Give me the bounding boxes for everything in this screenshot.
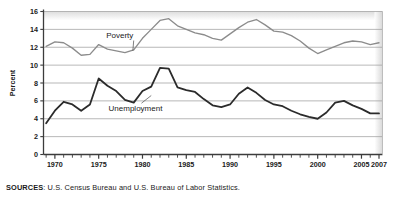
y-axis-tick-labels: 0246810121416 <box>30 7 38 159</box>
y-axis-title: Percent <box>8 69 17 96</box>
y-tick-label-0: 0 <box>34 150 38 159</box>
y-tick-label-14: 14 <box>30 25 38 34</box>
x-tick-label-2005: 2005 <box>353 160 369 169</box>
source-note: SOURCES: U.S. Census Bureau and U.S. Bur… <box>6 183 240 192</box>
source-note-label: SOURCES <box>6 183 43 192</box>
series-label-unemployment: Unemployment <box>109 104 164 113</box>
y-tick-label-12: 12 <box>30 43 38 52</box>
y-tick-label-16: 16 <box>30 7 38 16</box>
y-tick-label-8: 8 <box>34 79 38 88</box>
y-axis-title-text: Percent <box>8 69 17 96</box>
x-tick-label-1990: 1990 <box>222 160 238 169</box>
x-tick-label-2000: 2000 <box>310 160 326 169</box>
x-axis-tick-labels: 197019751980198519901995200020052007 <box>47 160 387 169</box>
x-tick-label-1985: 1985 <box>178 160 194 169</box>
y-tick-label-4: 4 <box>34 114 38 123</box>
source-note-text: U.S. Census Bureau and U.S. Bureau of La… <box>48 183 240 192</box>
series-label-poverty: Poverty <box>106 31 133 40</box>
x-tick-label-1975: 1975 <box>91 160 107 169</box>
y-tick-label-6: 6 <box>34 96 38 105</box>
y-tick-label-2: 2 <box>34 132 38 141</box>
y-tick-label-10: 10 <box>30 61 38 70</box>
line-chart: 0246810121416 19701975198019851990199520… <box>0 0 400 202</box>
x-tick-label-1980: 1980 <box>134 160 150 169</box>
x-tick-label-1995: 1995 <box>266 160 282 169</box>
plot-top-shading <box>44 12 383 21</box>
poverty-unemployment-chart-figure: 0246810121416 19701975198019851990199520… <box>0 0 400 202</box>
x-tick-label-2007: 2007 <box>371 160 387 169</box>
x-tick-label-1970: 1970 <box>47 160 63 169</box>
